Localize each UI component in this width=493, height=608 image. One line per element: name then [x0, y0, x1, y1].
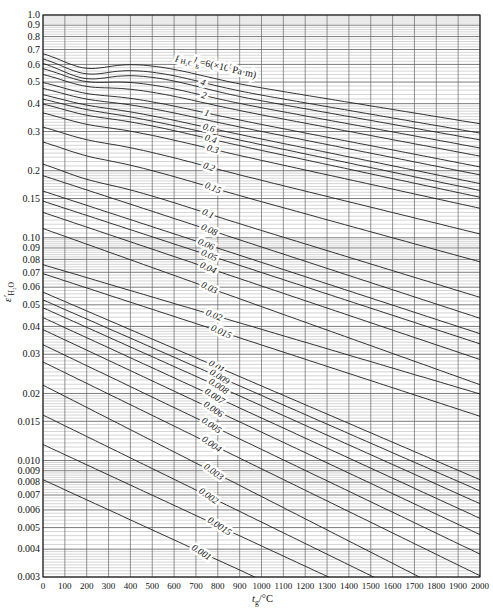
- y-tick-label-0.5: 0.5: [28, 76, 41, 87]
- y-tick-label-0.8: 0.8: [28, 31, 41, 42]
- curve-label-1: 1: [203, 108, 210, 119]
- y-tick-label-0.4: 0.4: [28, 98, 41, 109]
- curve-label-0.15: 0.15: [203, 180, 222, 196]
- y-tick-label-0.05: 0.05: [23, 299, 41, 310]
- y-tick-label-0.6: 0.6: [28, 59, 41, 70]
- water-vapor-emissivity-chart: 4210.60.40.30.20.150.10.080.060.050.040.…: [0, 0, 493, 608]
- x-tick-label-0: 0: [41, 581, 46, 591]
- y-tick-label-0.015: 0.015: [18, 416, 41, 427]
- curve-label-2: 2: [200, 90, 208, 101]
- y-tick-label-0.2: 0.2: [28, 165, 41, 176]
- y-tick-label-0.005: 0.005: [18, 522, 41, 533]
- x-tick-label-900: 900: [233, 581, 247, 591]
- x-tick-label-1400: 1400: [340, 581, 359, 591]
- y-tick-label-0.007: 0.007: [18, 489, 41, 500]
- x-tick-label-100: 100: [58, 581, 72, 591]
- y-tick-label-0.03: 0.03: [23, 348, 41, 359]
- x-tick-labels: 0100200300400500600700800900100011001200…: [41, 581, 490, 591]
- curve-label-0.0015: 0.0015: [206, 515, 234, 538]
- y-tick-label-0.008: 0.008: [18, 476, 41, 487]
- y-tick-label-0.07: 0.07: [23, 267, 41, 278]
- y-tick-label-0.7: 0.7: [28, 44, 41, 55]
- param-label: pH₂Olg=6(×105Pa·m): [174, 50, 258, 82]
- curve-pl-0.003: [43, 385, 449, 592]
- x-tick-label-500: 500: [146, 581, 160, 591]
- curve-pl-0.001: [43, 480, 288, 592]
- x-tick-label-700: 700: [189, 581, 203, 591]
- x-tick-label-1200: 1200: [296, 581, 315, 591]
- y-tick-label-0.04: 0.04: [23, 321, 41, 332]
- y-tick-label-0.3: 0.3: [28, 126, 41, 137]
- x-tick-label-2000: 2000: [471, 581, 490, 591]
- x-tick-label-1300: 1300: [318, 581, 337, 591]
- grid-vertical: [43, 15, 480, 577]
- y-tick-label-0.09: 0.09: [23, 242, 41, 253]
- chart-page: 4210.60.40.30.20.150.10.080.060.050.040.…: [0, 0, 493, 608]
- y-tick-label-0.004: 0.004: [18, 543, 41, 554]
- x-tick-label-1600: 1600: [384, 581, 403, 591]
- y-tick-label-0.08: 0.08: [23, 254, 41, 265]
- x-tick-label-1900: 1900: [449, 581, 468, 591]
- curve-label-0.2: 0.2: [202, 160, 217, 174]
- y-tick-label-0.9: 0.9: [28, 19, 41, 30]
- x-tick-label-1000: 1000: [253, 581, 272, 591]
- y-tick-label-0.009: 0.009: [18, 465, 41, 476]
- y-tick-labels: 1.00.90.80.70.60.50.40.30.20.150.100.090…: [18, 9, 41, 582]
- x-tick-label-600: 600: [167, 581, 181, 591]
- curve-label-0.02: 0.02: [205, 307, 224, 323]
- curve-label-0.002: 0.002: [197, 486, 220, 507]
- y-tick-label-0.02: 0.02: [23, 388, 41, 399]
- x-tick-label-400: 400: [124, 581, 138, 591]
- x-tick-label-1700: 1700: [405, 581, 424, 591]
- x-axis-title: tg/°C: [252, 593, 273, 607]
- x-tick-label-1500: 1500: [362, 581, 381, 591]
- x-tick-label-1100: 1100: [275, 581, 293, 591]
- y-tick-label-0.006: 0.006: [18, 504, 41, 515]
- x-tick-label-800: 800: [211, 581, 225, 591]
- x-tick-label-200: 200: [80, 581, 94, 591]
- y-tick-label-0.15: 0.15: [23, 193, 41, 204]
- x-tick-label-1800: 1800: [427, 581, 446, 591]
- y-tick-label-0.06: 0.06: [23, 281, 41, 292]
- x-tick-label-300: 300: [102, 581, 116, 591]
- y-axis-title: ε′H₂O: [2, 281, 16, 302]
- curve-label-0.015: 0.015: [209, 323, 233, 341]
- y-tick-label-0.003: 0.003: [18, 571, 41, 582]
